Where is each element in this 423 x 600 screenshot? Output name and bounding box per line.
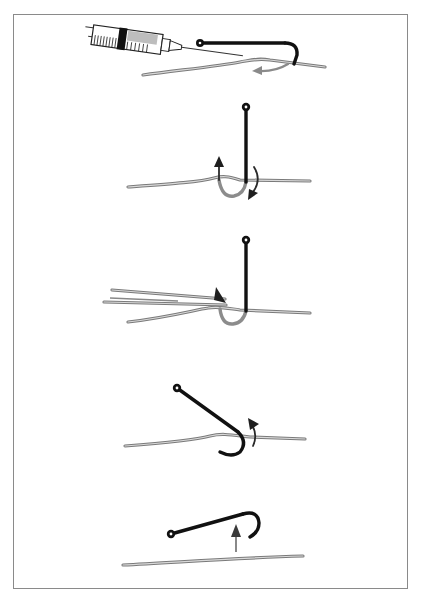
step-2 (128, 103, 310, 200)
rotation-arrow-down-icon (248, 167, 258, 200)
fishhook-icon (173, 384, 244, 455)
fishhook-icon (242, 103, 250, 182)
hook-removal-diagram (0, 0, 423, 600)
forceps-icon (104, 287, 226, 305)
syringe-icon (83, 23, 245, 67)
step-3 (104, 236, 310, 324)
step-5 (123, 513, 303, 565)
fishhook-icon (242, 236, 250, 311)
curved-arrow-icon (252, 64, 288, 75)
fishhook-icon (167, 513, 259, 538)
step-1 (83, 23, 325, 75)
step-4 (125, 384, 305, 455)
curved-arrow-up-icon (248, 418, 259, 446)
upward-arrow-icon (231, 524, 241, 552)
